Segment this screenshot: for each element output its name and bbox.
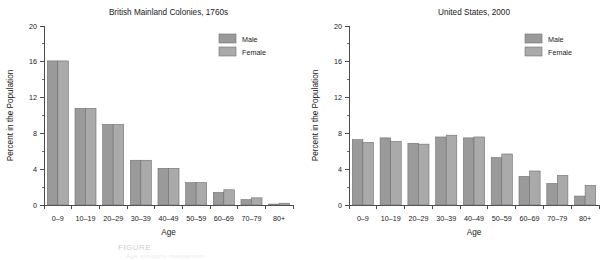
y-tick-label: 4: [338, 165, 342, 174]
x-tick-label: 30–39: [436, 214, 456, 223]
legend-label-female: Female: [548, 48, 572, 57]
y-tick-label: 16: [334, 57, 342, 66]
x-tick-label: 50–59: [186, 214, 206, 223]
bar-male-3039: [436, 137, 447, 205]
bar-female-3039: [141, 160, 152, 205]
bar-female-1019: [86, 108, 97, 205]
y-tick-label: 8: [338, 129, 342, 138]
x-tick-label: 60–69: [214, 214, 234, 223]
bar-female-2029: [418, 144, 429, 205]
x-tick-label: 80+: [579, 214, 591, 223]
legend-swatch-male: [219, 34, 236, 43]
chart-title: British Mainland Colonies, 1760s: [109, 8, 228, 17]
figure-container: British Mainland Colonies, 1760sPercent …: [0, 0, 611, 260]
chart-title: United States, 2000: [438, 8, 510, 17]
bar-male-5059: [186, 183, 197, 205]
x-tick-label: 10–19: [76, 214, 96, 223]
legend-label-female: Female: [242, 48, 266, 57]
bar-female-5059: [502, 154, 513, 205]
bar-female-80+: [585, 185, 596, 205]
figure-caption-partial-secondary: Age structure comparison: [126, 253, 204, 259]
bar-female-5059: [196, 183, 207, 205]
bar-male-7079: [241, 200, 252, 205]
y-tick-label: 0: [338, 201, 342, 210]
bar-male-4049: [463, 138, 474, 205]
x-tick-label: 50–59: [492, 214, 512, 223]
x-tick-label: 0–9: [52, 214, 64, 223]
bar-male-2029: [103, 124, 114, 205]
legend-swatch-female: [219, 47, 236, 56]
y-tick-label: 12: [29, 93, 37, 102]
bar-female-4049: [169, 168, 180, 205]
x-tick-label: 70–79: [547, 214, 567, 223]
bar-male-2029: [408, 143, 419, 205]
x-axis-label: Age: [467, 228, 482, 237]
x-tick-label: 20–29: [103, 214, 123, 223]
y-tick-label: 0: [33, 201, 37, 210]
x-tick-label: 0–9: [357, 214, 369, 223]
x-tick-label: 10–19: [381, 214, 401, 223]
y-axis-label: Percent in the Population: [6, 69, 15, 161]
legend-label-male: Male: [242, 35, 258, 44]
bar-male-09: [352, 140, 363, 205]
y-tick-label: 12: [334, 93, 342, 102]
bar-female-6069: [530, 171, 541, 205]
bar-female-09: [58, 61, 69, 205]
bar-male-80+: [269, 204, 280, 205]
x-tick-label: 40–49: [159, 214, 179, 223]
legend-swatch-male: [525, 34, 542, 43]
y-tick-label: 16: [29, 57, 37, 66]
x-tick-label: 80+: [273, 214, 285, 223]
figure-caption-partial: FIGURE: [118, 243, 151, 252]
x-tick-label: 60–69: [520, 214, 540, 223]
bar-chart-united-states-2000: United States, 2000Percent in the Popula…: [305, 0, 611, 240]
chart-panel-left: British Mainland Colonies, 1760sPercent …: [0, 0, 305, 240]
x-tick-label: 70–79: [242, 214, 262, 223]
y-axis-label: Percent in the Population: [311, 69, 320, 161]
bar-chart-british-mainland-colonies: British Mainland Colonies, 1760sPercent …: [0, 0, 305, 240]
bar-male-80+: [575, 196, 586, 205]
y-tick-label: 20: [334, 22, 342, 31]
bar-female-7079: [557, 175, 568, 205]
bar-male-6069: [213, 192, 224, 205]
bar-male-6069: [519, 176, 530, 205]
bar-male-3039: [130, 160, 141, 205]
chart-panel-right: United States, 2000Percent in the Popula…: [305, 0, 611, 240]
bar-female-6069: [224, 190, 235, 205]
x-tick-label: 30–39: [131, 214, 151, 223]
bar-male-7079: [547, 184, 558, 205]
bar-female-7079: [252, 198, 263, 205]
bar-male-09: [47, 61, 58, 205]
bar-female-4049: [474, 137, 485, 205]
bar-female-2029: [113, 124, 124, 205]
x-tick-label: 40–49: [464, 214, 484, 223]
x-axis-label: Age: [161, 228, 176, 237]
y-tick-label: 4: [33, 165, 37, 174]
bar-male-1019: [380, 138, 391, 205]
bar-female-1019: [391, 141, 402, 205]
bar-female-09: [363, 142, 374, 205]
bar-female-3039: [446, 135, 457, 205]
bar-male-5059: [491, 158, 502, 205]
y-tick-label: 8: [33, 129, 37, 138]
bar-male-1019: [75, 108, 86, 205]
y-tick-label: 20: [29, 22, 37, 31]
bar-female-80+: [279, 203, 290, 205]
legend-swatch-female: [525, 47, 542, 56]
legend-label-male: Male: [548, 35, 564, 44]
x-tick-label: 20–29: [408, 214, 428, 223]
bar-male-4049: [158, 168, 169, 205]
